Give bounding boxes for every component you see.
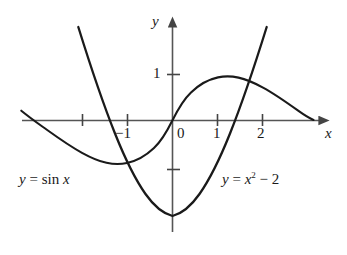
sine-label-x: x bbox=[63, 171, 70, 187]
sine-label-eq: = sin bbox=[26, 171, 63, 187]
x-tick-label-minus1: −1 bbox=[115, 126, 131, 141]
parabola-label-rest: − 2 bbox=[256, 171, 279, 187]
function-graph-figure: y x −1 0 1 2 1 y = sin x y = x2 − 2 bbox=[0, 0, 347, 255]
parabola-label-y: y bbox=[222, 171, 229, 187]
sine-curve-label: y = sin x bbox=[19, 172, 70, 187]
y-axis-label: y bbox=[152, 14, 159, 29]
x-tick-label-2: 2 bbox=[257, 126, 265, 141]
parabola-label-eq: = bbox=[229, 171, 245, 187]
x-tick-label-1: 1 bbox=[213, 126, 221, 141]
parabola-curve-label: y = x2 − 2 bbox=[222, 172, 279, 187]
sine-label-y: y bbox=[19, 171, 26, 187]
x-axis-label: x bbox=[325, 126, 332, 141]
graph-canvas bbox=[0, 0, 347, 255]
y-tick-label-1: 1 bbox=[153, 66, 161, 81]
origin-label: 0 bbox=[177, 126, 185, 141]
y-axis-ticks bbox=[167, 75, 180, 170]
